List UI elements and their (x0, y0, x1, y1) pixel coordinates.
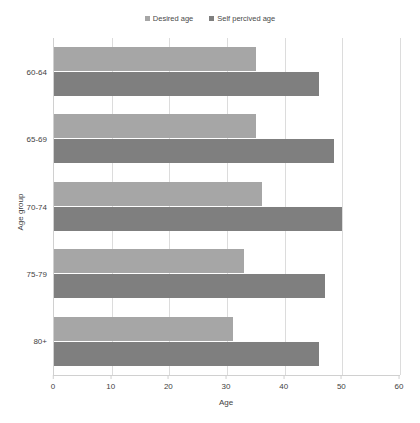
y-axis-tick-label: 60-64 (0, 67, 47, 76)
x-axis-tick-mark (399, 375, 400, 379)
legend-swatch-icon (145, 16, 150, 21)
x-axis-tick-label: 0 (51, 382, 55, 391)
y-axis-tick-label: 75-79 (0, 269, 47, 278)
bar[interactable] (54, 72, 319, 96)
legend-swatch-icon (209, 16, 214, 21)
x-axis-tick-label: 60 (395, 382, 404, 391)
x-axis-tick-mark (52, 375, 53, 379)
plot-area (53, 38, 400, 376)
bar[interactable] (54, 47, 256, 71)
legend-item-desired-age[interactable]: Desired age (145, 14, 193, 23)
bar[interactable] (54, 274, 325, 298)
bar[interactable] (54, 182, 262, 206)
x-axis-tick: 50 (337, 375, 346, 391)
x-axis-tick-label: 10 (106, 382, 115, 391)
bar[interactable] (54, 207, 342, 231)
bar[interactable] (54, 249, 244, 273)
bar-group (54, 308, 400, 375)
bar[interactable] (54, 139, 334, 163)
y-axis-tick-label: 65-69 (0, 135, 47, 144)
x-axis-tick: 60 (395, 375, 404, 391)
x-axis-tick-mark (283, 375, 284, 379)
x-axis-tick: 20 (164, 375, 173, 391)
y-axis-tick-label: 80+ (0, 337, 47, 346)
bar-group (54, 240, 400, 307)
x-axis-tick-mark (226, 375, 227, 379)
chart-legend: Desired age Self percived age (0, 14, 420, 23)
bar[interactable] (54, 114, 256, 138)
legend-label: Desired age (153, 14, 193, 23)
y-axis-tick-label: 70-74 (0, 202, 47, 211)
bar-chart: Desired age Self percived age Age group … (0, 0, 420, 423)
chart-title (0, 0, 420, 2)
x-axis-tick: 30 (222, 375, 231, 391)
bar-group (54, 38, 400, 105)
x-axis-tick-mark (110, 375, 111, 379)
x-axis-tick-mark (341, 375, 342, 379)
x-axis-tick-label: 30 (222, 382, 231, 391)
gridline (400, 38, 401, 375)
legend-item-self-percived-age[interactable]: Self percived age (209, 14, 275, 23)
bar[interactable] (54, 317, 233, 341)
x-axis-title: Age (53, 398, 399, 407)
bar-group (54, 173, 400, 240)
x-axis-tick: 10 (106, 375, 115, 391)
x-axis-tick: 0 (51, 375, 55, 391)
bar[interactable] (54, 342, 319, 366)
legend-label: Self percived age (217, 14, 275, 23)
y-axis-tick-labels: 60-6465-6970-7475-7980+ (0, 38, 53, 375)
x-axis-tick: 40 (279, 375, 288, 391)
x-axis-tick-mark (168, 375, 169, 379)
x-axis-tick-labels: 0102030405060 (53, 375, 399, 395)
x-axis-tick-label: 40 (279, 382, 288, 391)
x-axis-tick-label: 20 (164, 382, 173, 391)
x-axis-tick-label: 50 (337, 382, 346, 391)
bar-group (54, 105, 400, 172)
